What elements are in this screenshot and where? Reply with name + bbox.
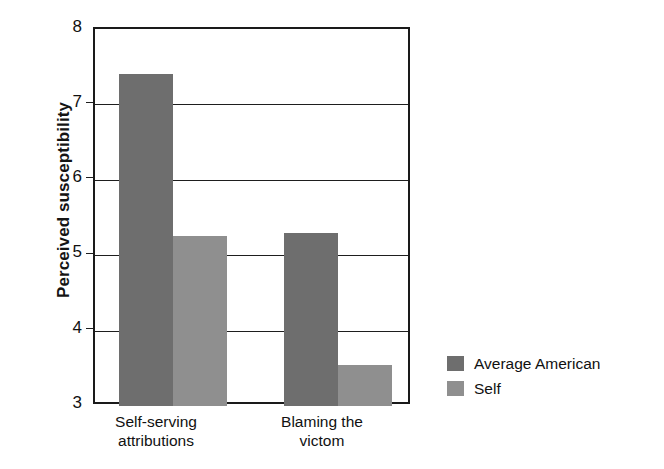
x-axis-label-blaming-the-victom: Blaming the victom <box>262 412 382 450</box>
plot-area <box>93 27 410 404</box>
y-tick-label-7: 7 <box>42 92 82 112</box>
legend-swatch-self <box>447 381 464 396</box>
y-tick-label-5: 5 <box>42 242 82 262</box>
legend-label-average-american: Average American <box>474 355 600 373</box>
y-tick-3: 3 <box>38 393 82 413</box>
y-tick-label-4: 4 <box>42 318 82 338</box>
y-tick-4: 4 <box>38 318 82 338</box>
y-axis-title: Perceived susceptibility <box>54 40 74 360</box>
bar-self-self-serving-attributions <box>173 236 227 406</box>
y-tick-5: 5 <box>38 242 82 262</box>
y-tick-mark-7 <box>86 102 93 103</box>
y-tick-label-8: 8 <box>42 17 82 37</box>
y-tick-mark-6 <box>86 177 93 178</box>
x-axis-label-self-serving-attributions: Self-serving attributions <box>96 412 216 450</box>
y-tick-6: 6 <box>38 167 82 187</box>
legend-label-self: Self <box>474 380 501 398</box>
bar-chart-figure: Perceived susceptibility 8 7 6 5 4 3 <box>0 0 664 469</box>
y-tick-7: 7 <box>38 92 82 112</box>
bar-self-blaming-the-victom <box>338 365 392 406</box>
legend-item-self: Self <box>447 376 600 401</box>
bar-average-american-self-serving-attributions <box>119 74 173 406</box>
legend-item-average-american: Average American <box>447 351 600 376</box>
y-tick-mark-4 <box>86 328 93 329</box>
bar-average-american-blaming-the-victom <box>284 233 338 406</box>
legend-swatch-average-american <box>447 356 464 371</box>
y-tick-label-6: 6 <box>42 167 82 187</box>
y-tick-mark-5 <box>86 253 93 254</box>
legend: Average American Self <box>447 351 600 401</box>
y-tick-label-3: 3 <box>42 393 82 413</box>
y-tick-8: 8 <box>38 17 82 37</box>
